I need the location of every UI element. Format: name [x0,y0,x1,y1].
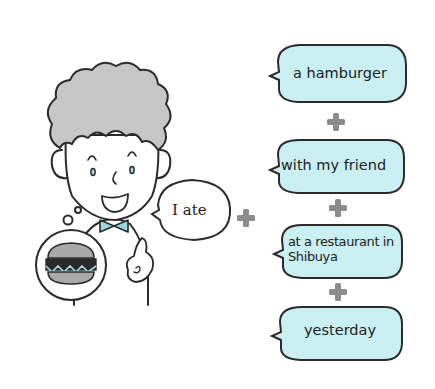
phrase-2-text: with my friend [281,158,386,173]
plus-icon [329,199,347,217]
bowtie [100,220,128,232]
plus-icon [327,113,345,131]
plus-icon [237,209,255,227]
hamburger-icon [46,243,96,284]
plus-icon [329,283,347,301]
thought-bubble [36,207,106,300]
phrase-4-text: yesterday [304,323,376,338]
phrase-1-text: a hamburger [293,66,387,81]
phrase-3-text: at a restaurant in Shibuya [288,234,408,264]
speaker-bubble-text: I ate [172,203,207,218]
